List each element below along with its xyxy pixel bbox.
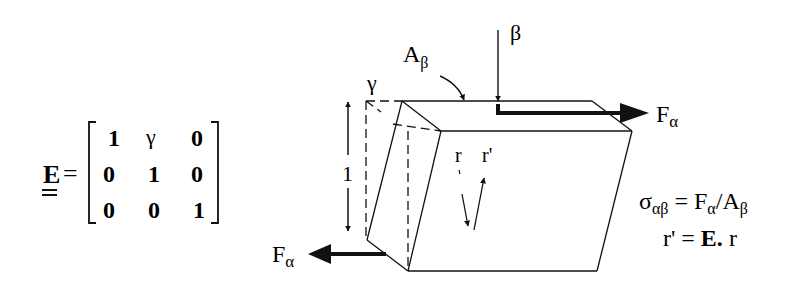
area-label-group: Aβ (403, 41, 464, 100)
matrix-cell-2-1: 0 (148, 197, 160, 223)
matrix-cell-0-2: 0 (191, 125, 203, 151)
bottom-force-label: Fα (272, 241, 294, 271)
original-top-diagonal (366, 101, 381, 112)
matrix-equals: = (63, 159, 78, 188)
r-prime-label: r' (482, 144, 492, 166)
stress-equation: σαβ = Fα/Aβ (639, 188, 748, 218)
top-force-label: Fα (656, 101, 678, 131)
height-label: 1 (342, 161, 353, 186)
matrix-cell-1-2: 0 (191, 161, 203, 187)
left-bracket (89, 122, 96, 223)
sheared-block (366, 101, 632, 271)
height-dimension: 1 (342, 102, 353, 231)
matrix-cell-2-0: 0 (103, 197, 115, 223)
shear-angle-label: γ (366, 70, 377, 95)
normal-direction: β (498, 20, 521, 101)
r-prime-vector (474, 178, 484, 230)
matrix-cell-0-0: 1 (108, 125, 120, 151)
front-right-edge (597, 131, 632, 271)
top-force-arrowhead (620, 103, 649, 123)
front-left-edge (408, 131, 441, 271)
beta-label: β (510, 20, 521, 45)
bottom-force: Fα (272, 241, 386, 271)
right-bracket (211, 122, 218, 223)
back-left-edge (367, 101, 402, 240)
r-label: r (455, 144, 462, 166)
position-vectors: r r' (455, 144, 492, 230)
matrix-symbol: E (43, 160, 60, 189)
matrix-cell-1-1: 1 (148, 161, 160, 187)
equations: σαβ = Fα/Aβ r' = E. r (639, 188, 748, 251)
strain-matrix: E = 1 γ 0 0 1 0 0 0 1 (42, 122, 218, 223)
r-vector (462, 194, 468, 226)
strain-equation: r' = E. r (663, 225, 737, 251)
matrix-cell-0-1: γ (145, 124, 156, 149)
area-pointer-arrow (440, 76, 464, 100)
area-label: Aβ (403, 41, 428, 72)
top-force-arrow (498, 104, 628, 113)
top-force: Fα (498, 101, 678, 131)
r-vector-dash (459, 170, 460, 174)
matrix-cell-1-0: 0 (103, 161, 115, 187)
matrix-cell-2-2: 1 (193, 197, 205, 223)
shear-strain-diagram: E = 1 γ 0 0 1 0 0 0 1 (0, 0, 802, 284)
bottom-force-arrowhead (308, 244, 331, 264)
